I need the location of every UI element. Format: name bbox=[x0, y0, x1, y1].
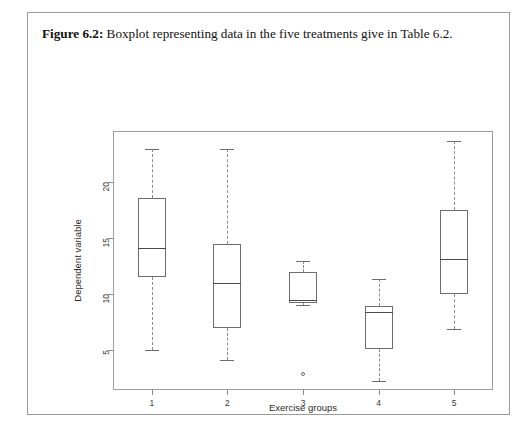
y-axis-tick-label: 10 bbox=[101, 294, 111, 303]
x-axis-tick bbox=[152, 389, 153, 395]
y-axis-tick-label: 15 bbox=[101, 238, 111, 247]
x-axis-tick-label: 1 bbox=[149, 398, 154, 408]
x-axis-tick-label: 3 bbox=[301, 398, 306, 408]
whisker-cap-lower bbox=[447, 329, 461, 330]
whisker-upper bbox=[454, 141, 455, 210]
figure-frame: Figure 6.2: Boxplot representing data in… bbox=[27, 12, 510, 415]
figure-caption-text: Boxplot representing data in the five tr… bbox=[107, 26, 453, 41]
figure-caption: Figure 6.2: Boxplot representing data in… bbox=[42, 25, 494, 43]
y-axis-tick-label: 5 bbox=[101, 350, 111, 355]
y-axis-tick-label: 20 bbox=[101, 182, 111, 191]
x-axis-tick-label: 4 bbox=[376, 398, 381, 408]
y-axis-title: Dependent variable bbox=[72, 131, 86, 390]
x-axis-tick bbox=[454, 389, 455, 395]
boxplot-box-group bbox=[114, 132, 492, 389]
whisker-lower bbox=[454, 294, 455, 329]
median-line bbox=[440, 259, 468, 260]
figure-caption-label: Figure 6.2: bbox=[42, 26, 103, 41]
x-axis-tick-label: 2 bbox=[225, 398, 230, 408]
x-axis-tick bbox=[303, 389, 304, 395]
x-axis-tick bbox=[227, 389, 228, 395]
boxplot-plot-area: 5101520 12345 bbox=[113, 131, 493, 390]
whisker-cap-upper bbox=[447, 141, 461, 142]
x-axis-tick bbox=[379, 389, 380, 395]
box-iqr bbox=[440, 210, 468, 294]
x-axis-tick-label: 5 bbox=[452, 398, 457, 408]
